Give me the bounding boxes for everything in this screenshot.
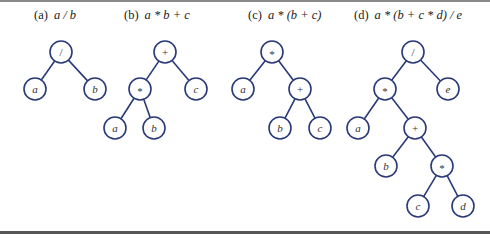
node-label: + <box>412 122 418 134</box>
tree-edge <box>364 98 378 119</box>
tree-edge <box>447 176 458 197</box>
operator-node-mul: * <box>261 41 283 63</box>
tree-panel-c: *a+bc <box>232 41 331 139</box>
tree-edge <box>421 137 435 157</box>
operator-node-mul1: * <box>374 78 396 100</box>
operand-node-b: b <box>269 117 291 139</box>
tree-edge <box>424 175 437 196</box>
tree-edge <box>392 61 407 80</box>
operator-node-plus: + <box>289 78 311 100</box>
node-label: c <box>194 83 199 95</box>
operator-node-mul2: * <box>431 155 453 177</box>
operator-node-plus: + <box>154 41 176 63</box>
node-label: b <box>383 160 389 172</box>
node-label: a <box>32 83 38 95</box>
node-label: * <box>439 162 445 174</box>
operand-node-a: a <box>347 117 369 139</box>
tree-edge <box>279 61 294 80</box>
node-label: e <box>446 83 451 95</box>
tree-edge <box>285 99 295 118</box>
operand-node-c: c <box>309 117 331 139</box>
node-label: b <box>277 122 283 134</box>
tree-panel-b: +*cab <box>104 41 207 139</box>
tree-edge <box>305 99 315 118</box>
tree-edge <box>392 98 409 120</box>
tree-edge <box>172 60 189 80</box>
node-label: c <box>318 122 323 134</box>
node-label: c <box>416 200 421 212</box>
tree-edge <box>421 60 441 81</box>
tree-panel-d: /*ea+b*cd <box>347 41 474 217</box>
operand-node-b: b <box>84 78 106 100</box>
operand-node-d: d <box>452 195 474 217</box>
operand-node-b: b <box>375 155 397 177</box>
node-label: b <box>151 122 157 134</box>
node-label: d <box>460 200 466 212</box>
node-label: * <box>137 85 143 97</box>
operand-node-c: c <box>407 195 429 217</box>
node-label: + <box>162 46 168 58</box>
tree-edge <box>146 61 159 80</box>
operator-node-plus: + <box>404 117 426 139</box>
figure-bottom-border <box>0 231 490 234</box>
tree-edge <box>250 61 265 81</box>
node-label: b <box>92 83 98 95</box>
tree-edge <box>144 99 151 117</box>
node-label: * <box>269 48 275 60</box>
tree-edge <box>68 60 87 81</box>
operator-node-div: / <box>402 41 424 63</box>
node-label: a <box>240 83 246 95</box>
operand-node-a: a <box>24 78 46 100</box>
operand-node-b: b <box>143 117 165 139</box>
operator-node-mul: * <box>129 78 151 100</box>
tree-edge <box>393 137 409 158</box>
node-label: + <box>297 83 303 95</box>
expression-trees-diagram: /ab+*cab*a+bc/*ea+b*cd <box>0 0 490 243</box>
operand-node-c: c <box>185 78 207 100</box>
node-label: a <box>355 122 361 134</box>
node-label: a <box>112 122 118 134</box>
operand-node-a: a <box>104 117 126 139</box>
operator-node-root: / <box>50 41 72 63</box>
operand-node-e: e <box>437 78 459 100</box>
tree-edge <box>41 61 54 80</box>
node-label: * <box>382 85 388 97</box>
tree-panel-a: /ab <box>24 41 106 100</box>
tree-edge <box>121 98 134 118</box>
operand-node-a: a <box>232 78 254 100</box>
